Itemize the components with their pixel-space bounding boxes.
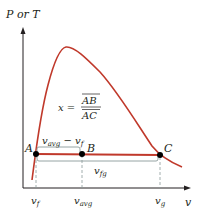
equation-lhs: x = [58,102,75,113]
x-tick-vg: vg [155,195,166,208]
equation-numerator: AB [81,95,97,106]
y-axis [21,27,26,188]
quality-equation: x = AB AC [58,94,101,121]
quality-diagram: P or T v A B C vavg − vf vfg x = AB AC v… [0,0,206,220]
bracket-vfg [37,157,158,161]
y-axis-arrow-icon [21,27,26,34]
equation-denominator: AC [81,110,97,121]
tie-line [36,154,160,155]
x-axis-label: v [185,196,192,209]
x-tick-vf: vf [31,195,41,208]
x-axis [23,186,191,191]
bracket-lower-label: vfg [94,165,107,178]
point-a-label: A [24,142,33,155]
saturation-curve [32,47,182,180]
point-b [79,151,85,157]
point-c [157,152,163,158]
x-tick-vavg: vavg [74,195,93,208]
bracket-upper-label: vavg − vf [42,135,85,148]
point-a [33,151,39,157]
y-axis-label: P or T [5,8,41,21]
point-b-label: B [86,142,95,155]
point-c-label: C [164,142,173,155]
x-axis-arrow-icon [184,186,191,191]
